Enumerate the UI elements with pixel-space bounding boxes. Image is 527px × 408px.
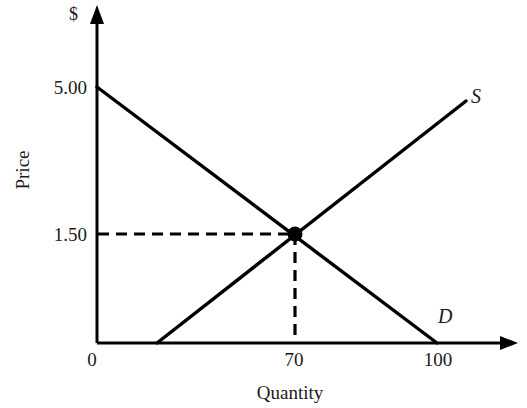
supply-curve-label: S — [471, 86, 481, 106]
x-axis-title: Quantity — [257, 383, 324, 402]
chart-plot-area — [0, 0, 527, 408]
x-tick-label-70: 70 — [285, 350, 304, 369]
demand-curve — [97, 87, 437, 343]
currency-symbol-label: $ — [69, 5, 78, 23]
demand-curve-label: D — [438, 306, 452, 326]
x-tick-label-0: 0 — [87, 350, 97, 369]
y-tick-label-1-50: 1.50 — [54, 225, 87, 244]
x-tick-label-100: 100 — [424, 350, 453, 369]
equilibrium-point-marker — [288, 227, 303, 242]
y-tick-label-5-00: 5.00 — [54, 78, 87, 97]
y-axis — [90, 5, 104, 343]
supply-demand-chart: $ 5.00 1.50 0 70 100 S D Quantity Price — [0, 0, 527, 408]
supply-curve — [157, 101, 466, 343]
y-axis-arrowhead — [90, 5, 104, 24]
y-axis-title: Price — [13, 150, 32, 189]
x-axis-arrowhead — [500, 336, 518, 350]
x-axis — [97, 336, 518, 350]
